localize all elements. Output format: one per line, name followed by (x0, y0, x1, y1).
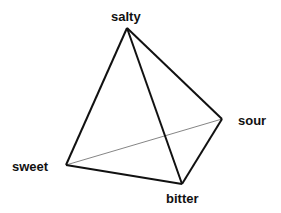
edge-salty-bitter (127, 28, 182, 184)
vertex-label-sweet: sweet (12, 159, 49, 174)
taste-tetrahedron-diagram: salty sweet bitter sour (0, 0, 281, 213)
edge-sweet-bitter (66, 165, 182, 184)
edge-salty-sweet (66, 28, 127, 165)
vertex-label-salty: salty (111, 9, 141, 24)
vertex-label-sour: sour (238, 113, 266, 128)
edge-salty-sour (127, 28, 222, 119)
vertex-label-bitter: bitter (166, 191, 199, 206)
